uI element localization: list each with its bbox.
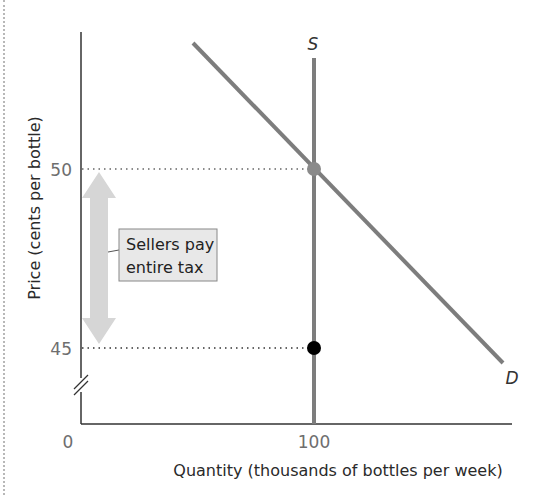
demand-curve: [193, 43, 503, 363]
chart: Price (cents per bottle) 50 45 0 100 Qua…: [0, 0, 550, 495]
x-axis-title: Quantity (thousands of bottles per week): [173, 461, 502, 480]
y-axis-title: Price (cents per bottle): [25, 116, 44, 300]
x-tick-100: 100: [298, 432, 330, 452]
equilibrium-point: [307, 162, 321, 176]
seller-price-point: [307, 341, 321, 355]
supply-label: S: [308, 34, 319, 54]
axis-break-icon: [72, 375, 90, 395]
annotation-connector: [108, 250, 119, 252]
annotation-line-1: Sellers pay: [126, 235, 214, 254]
annotation-line-2: entire tax: [126, 258, 203, 277]
tax-incidence-arrow-icon: [82, 172, 116, 344]
y-tick-50: 50: [50, 160, 72, 180]
demand-label: D: [505, 368, 518, 388]
x-tick-0: 0: [63, 432, 74, 452]
y-tick-45: 45: [50, 339, 72, 359]
